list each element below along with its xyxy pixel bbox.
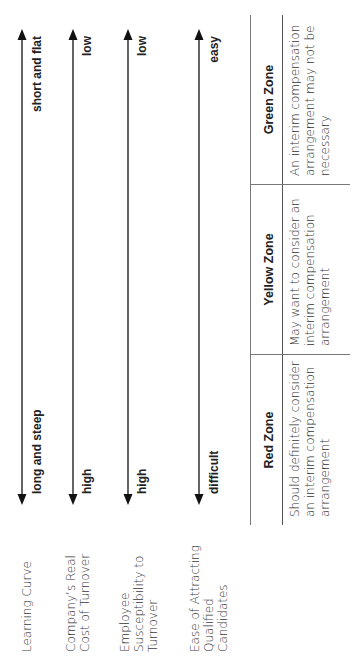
- scale-right-label: easy: [207, 36, 221, 63]
- row-label-employee-susceptibility: Employee Susceptibility to Turnover: [118, 542, 160, 652]
- zone-title: Red Zone: [262, 355, 276, 525]
- zone-yellow: Yellow Zone May want to consider an inte…: [250, 185, 350, 355]
- zone-red: Red Zone Should definitely consider an i…: [250, 355, 350, 525]
- zones-table: Red Zone Should definitely consider an i…: [248, 15, 358, 525]
- zone-title: Yellow Zone: [262, 185, 276, 354]
- scale-left-label: high: [135, 469, 149, 494]
- zone-description: An interim compensation arrangement may …: [288, 21, 333, 176]
- zone-description: May want to consider an interim compensa…: [288, 191, 333, 346]
- row-label-company-cost: Company’s Real Cost of Turnover: [64, 542, 92, 652]
- zone-title: Green Zone: [262, 15, 276, 184]
- scale-right-label: low: [135, 36, 149, 56]
- scale-left-label: long and steep: [30, 409, 44, 494]
- scale-right-label: short and flat: [30, 36, 44, 112]
- double-headed-arrow-icon: [16, 29, 28, 505]
- double-headed-arrow-icon: [67, 29, 79, 505]
- scale-left-label: high: [80, 469, 94, 494]
- row-label-learning-curve: Learning Curve: [20, 542, 34, 652]
- double-headed-arrow-icon: [122, 29, 134, 505]
- zone-green: Green Zone An interim compensation arran…: [250, 15, 350, 185]
- scale-left-label: difficult: [207, 451, 221, 494]
- decision-diagram: Learning Curve long and steep short and …: [0, 0, 358, 672]
- row-label-ease-attracting: Ease of Attracting Qualified Candidates: [188, 542, 230, 652]
- double-headed-arrow-icon: [193, 29, 205, 505]
- zone-description: Should definitely consider an interim co…: [288, 361, 333, 517]
- scale-right-label: low: [80, 36, 94, 56]
